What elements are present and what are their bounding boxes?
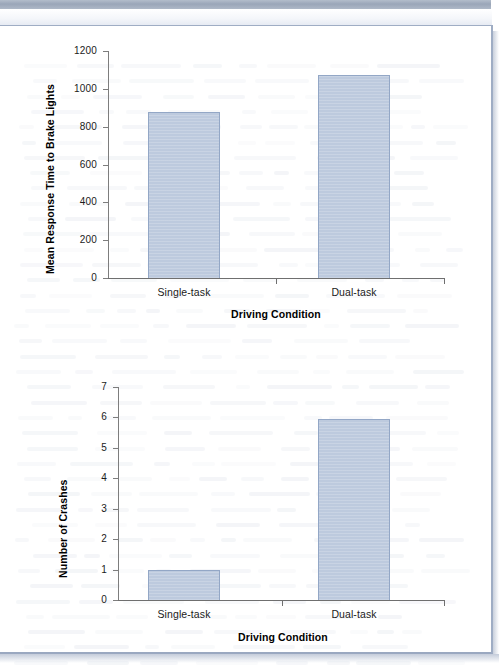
y-tick-label-crashes-7: 7 [65, 381, 107, 392]
y-tick-label-crashes-3: 3 [65, 503, 107, 514]
y-tick-label-crashes-6: 6 [65, 411, 107, 422]
page-shadow-bottom [0, 654, 499, 663]
x-axis-title-response-time: Driving Condition [168, 308, 384, 320]
x-category-label-crashes-0: Single-task [140, 608, 228, 620]
scanned-page-root: Mean Response Time to Brake Lights 02004… [0, 0, 503, 670]
y-tick-label-crashes-5: 5 [65, 442, 107, 453]
y-tick-label-response-time-400: 400 [55, 196, 97, 207]
y-tick-crashes-2 [113, 539, 118, 540]
chart-crashes: Number of Crashes 01234567 Single-taskDu… [0, 346, 493, 646]
x-axis-title-crashes: Driving Condition [175, 631, 391, 643]
bar-crashes-single-task [148, 570, 220, 600]
x-axis-center-tick-response-time [276, 279, 277, 284]
y-tick-crashes-4 [113, 478, 118, 479]
y-tick-label-crashes-2: 2 [65, 533, 107, 544]
y-tick-label-crashes-0: 0 [65, 594, 107, 605]
y-tick-crashes-5 [113, 448, 118, 449]
y-tick-label-response-time-0: 0 [55, 272, 97, 283]
x-axis-end-tick-crashes [444, 601, 445, 606]
y-axis-title-response-time: Mean Response Time to Brake Lights [44, 84, 56, 274]
y-tick-crashes-3 [113, 509, 118, 510]
y-tick-response-time-1200 [103, 51, 108, 52]
y-tick-response-time-400 [103, 202, 108, 203]
y-tick-crashes-1 [113, 570, 118, 571]
scanner-top-band [0, 0, 491, 9]
bar-response-time-single-task [148, 112, 220, 278]
x-category-label-response-time-0: Single-task [140, 286, 228, 298]
y-tick-response-time-1000 [103, 89, 108, 90]
y-tick-label-crashes-1: 1 [65, 564, 107, 575]
y-tick-crashes-7 [113, 387, 118, 388]
x-category-label-crashes-1: Dual-task [310, 608, 398, 620]
y-axis-line-crashes [118, 387, 119, 600]
y-tick-response-time-600 [103, 165, 108, 166]
x-axis-end-tick-response-time [444, 279, 445, 284]
y-tick-response-time-200 [103, 240, 108, 241]
y-tick-response-time-800 [103, 127, 108, 128]
y-tick-label-response-time-800: 800 [55, 121, 97, 132]
y-tick-label-response-time-1200: 1200 [55, 45, 97, 56]
page-shadow-right [493, 31, 499, 657]
y-tick-label-response-time-600: 600 [55, 159, 97, 170]
page-sheet: Mean Response Time to Brake Lights 02004… [0, 25, 493, 654]
x-axis-center-tick-crashes [282, 601, 283, 606]
x-category-label-response-time-1: Dual-task [310, 286, 398, 298]
scanner-band-gap [0, 9, 492, 25]
bar-crashes-dual-task [318, 419, 390, 600]
y-tick-response-time-0 [103, 278, 108, 279]
y-tick-crashes-6 [113, 417, 118, 418]
y-tick-label-response-time-200: 200 [55, 234, 97, 245]
y-tick-crashes-0 [113, 600, 118, 601]
y-axis-line-response-time [108, 51, 109, 278]
chart-response-time: Mean Response Time to Brake Lights 02004… [0, 26, 493, 326]
y-tick-label-response-time-1000: 1000 [55, 83, 97, 94]
y-tick-label-crashes-4: 4 [65, 472, 107, 483]
bar-response-time-dual-task [318, 75, 390, 278]
